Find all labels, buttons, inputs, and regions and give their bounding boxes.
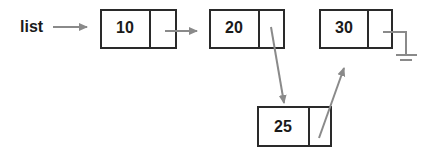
- node-value: 30: [335, 19, 353, 36]
- linked-list-diagram: list 10 20 30 25: [0, 0, 436, 156]
- node-value: 10: [116, 19, 134, 36]
- node-box: [320, 10, 392, 48]
- node-value: 20: [225, 19, 243, 36]
- node-value: 25: [274, 118, 292, 135]
- node-25: 25: [258, 107, 331, 146]
- node-box: [101, 10, 176, 48]
- list-pointer-label: list: [20, 18, 44, 35]
- node-box: [258, 107, 331, 146]
- node-30: 30: [320, 10, 392, 48]
- node-10: 10: [101, 10, 176, 48]
